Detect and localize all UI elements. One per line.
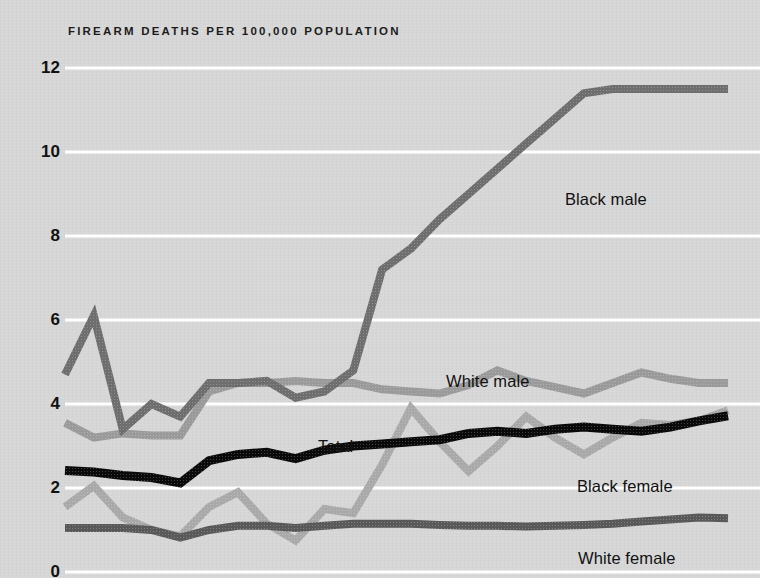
series-texture-total (65, 416, 728, 483)
data-series-lines (65, 89, 728, 541)
series-label-black-female: Black female (577, 477, 673, 496)
series-label-white-male: White male (446, 372, 530, 391)
series-label-white-female: White female (578, 549, 676, 568)
series-label-total: Total (318, 437, 353, 456)
series-label-black-male: Black male (565, 190, 647, 209)
chart-canvas: FIREARM DEATHS PER 100,000 POPULATION 12… (0, 0, 760, 578)
series-texture-white-female (65, 517, 728, 537)
gridlines (65, 68, 760, 572)
